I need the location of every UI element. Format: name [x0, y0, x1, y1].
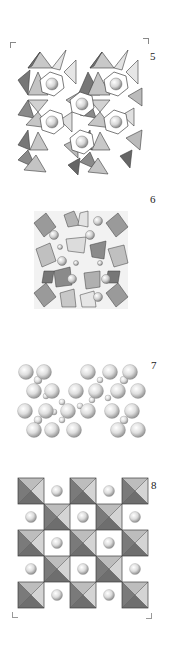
ball-model-diagram-7 [0, 330, 173, 450]
panel-5: 5 [0, 0, 173, 175]
crop-mark-bottom-left [12, 612, 18, 618]
panel-7: 7 [0, 330, 173, 450]
panel-6: 6 [0, 175, 173, 315]
framework-diagram-5 [0, 0, 173, 175]
framework-diagram-6 [0, 175, 173, 315]
crop-mark-bottom-right [146, 613, 152, 619]
